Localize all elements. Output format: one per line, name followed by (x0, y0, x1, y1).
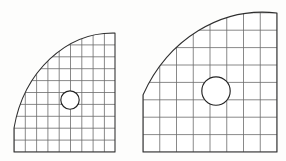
figure-canvas (0, 0, 286, 161)
left-quarter-plate (8, 27, 115, 152)
figure-svg (0, 0, 286, 161)
right-quarter-plate (137, 7, 277, 152)
left-panel-hole-circle (61, 91, 79, 109)
right-panel-hole-circle (202, 77, 230, 105)
